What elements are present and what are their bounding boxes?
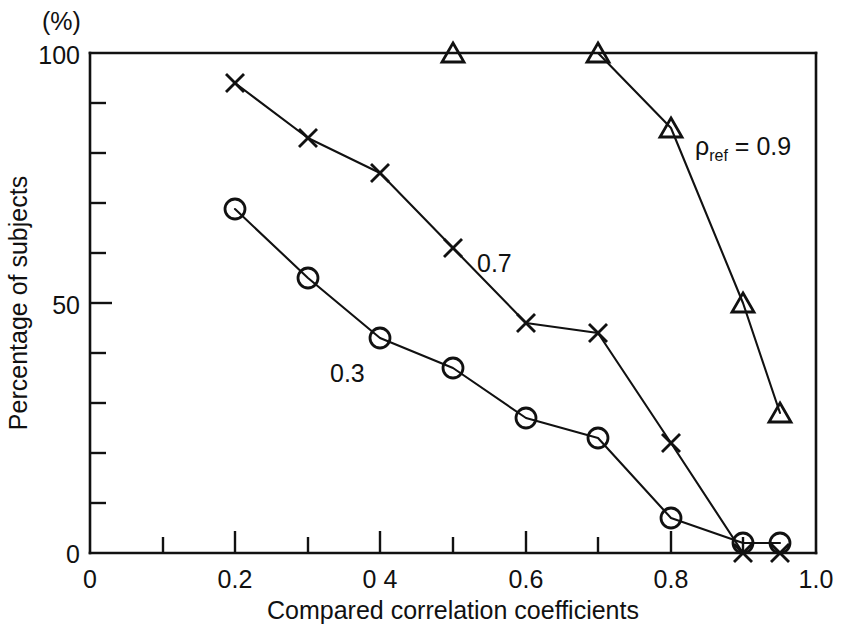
data-point-cross-0.2: [226, 74, 244, 92]
y-axis-title: Percentage of subjects: [4, 176, 32, 430]
data-point-cross-0.8: [662, 434, 680, 452]
axis-frame: [90, 53, 816, 553]
svg-text:ρref = 0.9: ρref = 0.9: [695, 132, 791, 164]
x-tick-label-1.0: 1.0: [799, 565, 834, 593]
series-annotation-0.7: 0.7: [477, 249, 512, 277]
line-chart-svg: (%) 100 50 0 0 0.2 0 4 0.6 0.8 1.0 Perce…: [0, 0, 844, 629]
chart-figure: (%) 100 50 0 0 0.2 0 4 0.6 0.8 1.0 Perce…: [0, 0, 844, 629]
y-tick-label-50: 50: [52, 291, 80, 319]
x-axis-ticks: [163, 531, 743, 553]
series-0.9-triangles: [442, 43, 791, 422]
x-axis-title: Compared correlation coefficients: [267, 596, 639, 624]
rho-symbol: ρ: [695, 132, 709, 160]
rho-value: = 0.9: [728, 132, 791, 160]
data-point-cross-0.3: [299, 129, 317, 147]
series-annotation-0.9: ρref = 0.9: [695, 132, 791, 164]
y-tick-label-100: 100: [38, 41, 80, 69]
x-tick-label-0.6: 0.6: [509, 565, 544, 593]
rho-subscript: ref: [709, 147, 728, 164]
y-unit-label: (%): [42, 7, 81, 35]
x-tick-label-0.2: 0.2: [218, 565, 253, 593]
x-tick-label-0.8: 0.8: [654, 565, 689, 593]
x-tick-label-0.4: 0 4: [363, 565, 398, 593]
x-tick-label-0: 0: [83, 565, 97, 593]
y-axis-ticks: [90, 103, 112, 503]
data-point-cross-0.5: [444, 239, 462, 257]
y-tick-label-0: 0: [66, 540, 80, 568]
data-point-cross-0.4: [371, 164, 389, 182]
series-annotation-0.3: 0.3: [330, 359, 365, 387]
